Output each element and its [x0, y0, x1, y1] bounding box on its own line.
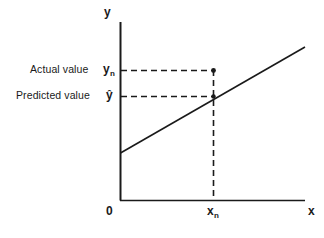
xn-subscript: n [214, 211, 219, 220]
predicted-value-annotation: Predicted value [16, 90, 90, 101]
origin-label: 0 [106, 205, 113, 217]
predicted-value-point [211, 94, 215, 98]
regression-residual-diagram: Actual value Predicted value yn ŷ y x 0 … [0, 0, 324, 238]
yn-subscript: n [110, 69, 115, 78]
y-axis-tick-yn: yn [103, 63, 115, 75]
plot-area [0, 0, 324, 238]
y-axis-tick-yhat: ŷ [106, 89, 113, 101]
actual-value-point [211, 68, 216, 73]
yn-base: y [103, 62, 110, 76]
xn-base: x [207, 204, 214, 218]
actual-value-annotation: Actual value [30, 64, 88, 75]
x-axis-tick-xn: xn [207, 205, 219, 217]
y-axis-label: y [104, 6, 111, 18]
x-axis-label: x [308, 205, 315, 217]
